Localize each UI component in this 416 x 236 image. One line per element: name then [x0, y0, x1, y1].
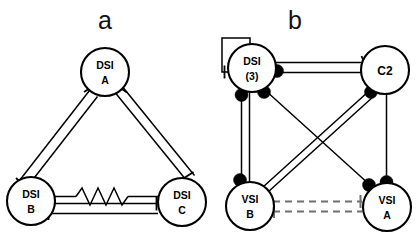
- node-vsi-b[interactable]: VSI B: [226, 182, 274, 230]
- edge-dsi3-c2: [274, 56, 367, 70]
- node-dsi-3-line1: DSI: [243, 55, 261, 67]
- node-dsi-b-line1: DSI: [22, 188, 40, 200]
- panel-b-letter: b: [288, 6, 302, 34]
- node-dsi-a-line1: DSI: [96, 59, 114, 71]
- edge-c2-dsi3: [271, 65, 365, 78]
- node-dsi-a-line2: A: [101, 74, 109, 86]
- node-dsi-c-line2: C: [178, 204, 186, 216]
- node-dsi-a[interactable]: DSI A: [81, 48, 129, 96]
- node-c2[interactable]: C2: [361, 46, 409, 94]
- node-dsi-b-line2: B: [27, 203, 35, 215]
- edge-vsiB-vsiA-dashed: [273, 195, 362, 218]
- node-c2-label: C2: [377, 64, 393, 78]
- zigzag-resistor-icon: [76, 188, 128, 205]
- edge-dsiA-dsiC: [114, 84, 195, 181]
- edge-c2-vsiA: [380, 94, 393, 189]
- panel-a: a: [7, 6, 206, 226]
- panel-b: b: [222, 6, 411, 231]
- figure-container: a: [0, 0, 416, 236]
- node-vsi-a-line2: A: [383, 209, 391, 221]
- panel-a-letter: a: [98, 6, 112, 34]
- node-vsi-b-line2: B: [246, 208, 254, 220]
- node-vsi-a[interactable]: VSI A: [363, 183, 411, 231]
- edge-c2-vsiB: [258, 86, 378, 196]
- circuit-diagram-svg: a: [0, 0, 416, 236]
- node-vsi-a-line1: VSI: [379, 194, 396, 206]
- node-dsi-c[interactable]: DSI C: [158, 178, 206, 226]
- node-dsi-3[interactable]: DSI (3): [228, 44, 276, 92]
- edge-dsiC-dsiB: [48, 207, 158, 220]
- edge-dsiA-dsiB: [16, 84, 98, 190]
- node-dsi-3-line2: (3): [246, 70, 259, 82]
- edge-dsiB-dsiC-electrical: [55, 188, 160, 211]
- node-dsi-c-line1: DSI: [173, 189, 191, 201]
- node-dsi-b[interactable]: DSI B: [7, 177, 55, 225]
- node-vsi-b-line1: VSI: [242, 193, 259, 205]
- edge-dsi3-vsiB: [234, 89, 250, 187]
